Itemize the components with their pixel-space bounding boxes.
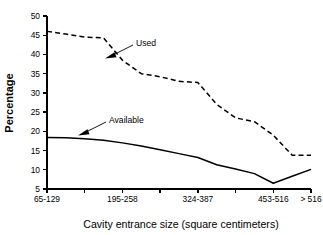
y-tick-label: 5 <box>35 184 40 194</box>
x-axis: 65-129195-258324-387453-516> 516 Cavity … <box>34 189 322 230</box>
y-tick-label: 40 <box>31 49 41 59</box>
y-tick-label: 25 <box>31 107 41 117</box>
x-tick-label: > 516 <box>300 194 322 204</box>
used-leader-line <box>113 45 133 55</box>
x-tick-label-group: 65-129195-258324-387453-516> 516 <box>34 194 322 204</box>
y-tick-label: 50 <box>31 11 41 21</box>
used-arrow-icon <box>105 52 117 58</box>
series-group <box>47 31 311 183</box>
y-tick-label: 20 <box>31 126 41 136</box>
used-annotation-label: Used <box>136 38 156 48</box>
y-tick-label: 10 <box>31 165 41 175</box>
x-tick-label: 65-129 <box>34 194 60 204</box>
available-annotation-label: Available <box>109 115 144 125</box>
y-axis: 5101520253035404550 Percentage <box>3 11 47 194</box>
chart-figure: 5101520253035404550 Percentage 65-129195… <box>0 0 323 235</box>
series-line-available <box>47 137 311 183</box>
available-arrow-icon <box>78 129 90 135</box>
annotation-used: Used <box>105 38 156 59</box>
y-tick-label: 30 <box>31 88 41 98</box>
x-tick-label: 324-387 <box>182 194 213 204</box>
y-axis-title: Percentage <box>3 73 15 132</box>
y-tick-label: 45 <box>31 30 41 40</box>
annotation-available: Available <box>78 115 144 136</box>
y-tick-label-group: 5101520253035404550 <box>31 11 41 194</box>
y-tick-label: 15 <box>31 146 41 156</box>
x-axis-title: Cavity entrance size (square centimeters… <box>83 218 278 230</box>
x-tick-label: 453-516 <box>258 194 289 204</box>
x-tick-label: 195-258 <box>107 194 138 204</box>
line-chart: 5101520253035404550 Percentage 65-129195… <box>0 0 323 235</box>
available-leader-line <box>86 122 106 132</box>
series-line-used <box>47 31 311 155</box>
y-tick-label: 35 <box>31 69 41 79</box>
